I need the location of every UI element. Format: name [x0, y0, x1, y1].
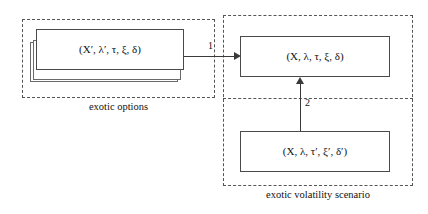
- edge-1-shaft: [184, 56, 236, 57]
- caption-exotic-options: exotic options: [22, 102, 215, 113]
- box-exotic-options-expression: (X′, λ′, τ, ξ, δ): [79, 44, 141, 55]
- box-target-scenario-expression: (X, λ, τ, ξ, δ): [286, 51, 343, 62]
- edge-1-arrowhead-icon: [234, 52, 241, 60]
- box-exotic-options-params[interactable]: (X′, λ′, τ, ξ, δ): [36, 29, 184, 70]
- box-target-scenario[interactable]: (X, λ, τ, ξ, δ): [240, 36, 390, 77]
- diagram-canvas: (X′, λ′, τ, ξ, δ) (X, λ, τ, ξ, δ) (X, λ,…: [0, 0, 428, 214]
- box-source-scenario[interactable]: (X, λ, τ′, ξ′, δ′): [240, 131, 390, 172]
- caption-exotic-volatility-scenario: exotic volatility scenario: [223, 190, 413, 201]
- edge-2-arrowhead-icon: [296, 77, 304, 84]
- edge-2-shaft: [300, 84, 301, 131]
- region-divider-line: [223, 98, 413, 99]
- edge-1-label: 1: [208, 41, 213, 51]
- edge-2-label: 2: [305, 98, 310, 108]
- box-source-scenario-expression: (X, λ, τ′, ξ′, δ′): [283, 146, 347, 157]
